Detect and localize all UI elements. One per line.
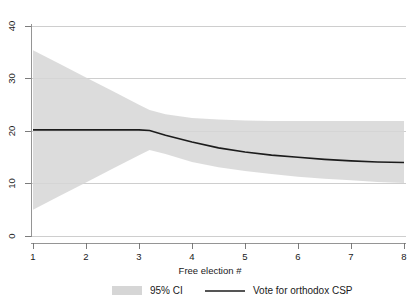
y-tick-label-40: 40 (6, 21, 17, 32)
y-tick-label-20: 20 (6, 126, 17, 137)
x-tick-label-1: 1 (30, 251, 35, 262)
x-axis-title: Free election # (179, 265, 243, 276)
x-tick-label-5: 5 (242, 251, 247, 262)
x-axis: 1 2 3 4 5 6 7 8 Free election # (30, 243, 406, 276)
x-tick-label-6: 6 (295, 251, 300, 262)
legend-swatch-ci (112, 286, 142, 295)
y-axis: 40 30 20 10 0 (6, 21, 31, 239)
y-tick-label-0: 0 (6, 233, 17, 238)
x-tick-label-2: 2 (83, 251, 88, 262)
x-tick-label-8: 8 (401, 251, 406, 262)
legend-label-ci: 95% CI (150, 285, 183, 296)
x-tick-label-4: 4 (189, 251, 194, 262)
chart-plot-area: 40 30 20 10 0 1 2 3 4 5 6 7 8 Free elect (0, 0, 412, 307)
y-tick-label-10: 10 (6, 178, 17, 189)
chart-container: 40 30 20 10 0 1 2 3 4 5 6 7 8 Free elect (0, 0, 412, 307)
x-tick-label-7: 7 (348, 251, 353, 262)
legend-label-vote: Vote for orthodox CSP (253, 285, 353, 296)
x-tick-label-3: 3 (136, 251, 141, 262)
y-tick-label-30: 30 (6, 73, 17, 84)
chart-legend: 95% CI Vote for orthodox CSP (112, 285, 353, 296)
